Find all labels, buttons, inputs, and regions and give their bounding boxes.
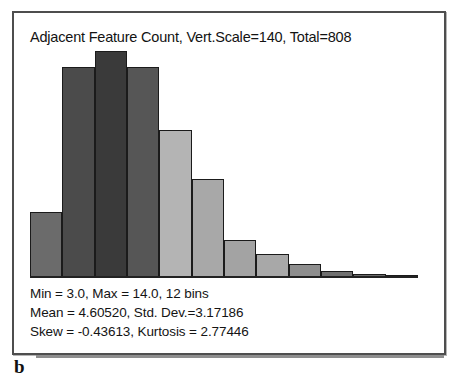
- histogram-bar: [62, 67, 94, 277]
- panel-label: b: [14, 356, 25, 378]
- histogram-bar: [30, 212, 62, 277]
- figure-panel: Adjacent Feature Count, Vert.Scale=140, …: [0, 0, 460, 381]
- histogram-bar: [95, 51, 127, 277]
- histogram-plot-area: [30, 49, 418, 277]
- histogram-baseline-axis: [30, 276, 418, 278]
- histogram-bar: [159, 130, 191, 277]
- histogram-bar: [192, 179, 224, 277]
- stat-line-skew-kurtosis: Skew = -0.43613, Kurtosis = 2.77446: [30, 322, 410, 341]
- histogram-bars: [30, 49, 418, 277]
- histogram-bar: [256, 254, 288, 277]
- stat-line-mean-stddev: Mean = 4.60520, Std. Dev.=3.17186: [30, 303, 410, 322]
- stat-line-range: Min = 3.0, Max = 14.0, 12 bins: [30, 284, 410, 303]
- chart-title: Adjacent Feature Count, Vert.Scale=140, …: [30, 29, 351, 45]
- statistics-block: Min = 3.0, Max = 14.0, 12 bins Mean = 4.…: [30, 284, 410, 341]
- histogram-bar: [224, 240, 256, 277]
- frame-bottom-rule: [36, 355, 444, 358]
- histogram-bar: [127, 67, 159, 277]
